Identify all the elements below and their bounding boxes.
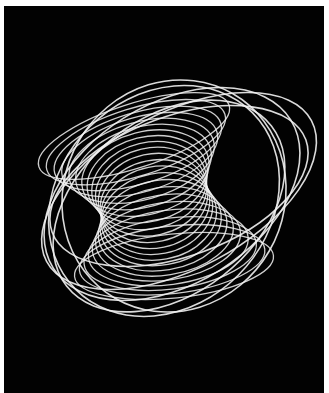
artwork-panel: [4, 6, 324, 393]
harmonograph-figure: [4, 6, 324, 393]
